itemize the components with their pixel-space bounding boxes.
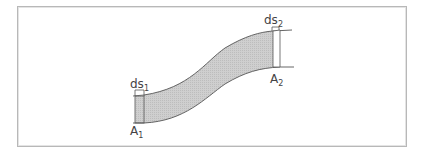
element-ds1	[135, 96, 144, 123]
stream-tube-diagram: ds1 ds2 A1 A2	[0, 0, 425, 157]
stream-tube-body	[144, 31, 280, 123]
label-ds2: ds2	[264, 13, 283, 29]
label-A2: A2	[270, 72, 283, 88]
element-ds2	[273, 30, 280, 67]
label-A1: A1	[130, 124, 143, 140]
label-ds1: ds1	[130, 77, 149, 93]
